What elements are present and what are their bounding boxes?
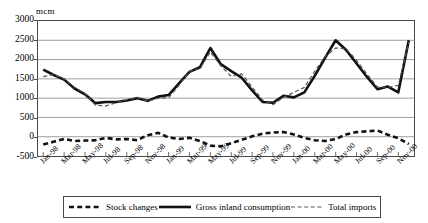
legend-swatch-thin-dashed <box>290 202 324 212</box>
y-axis-tick-label: 0 <box>1 132 34 142</box>
plot-svg <box>38 21 414 156</box>
legend-item: Stock changes <box>68 202 158 212</box>
legend-item: Gross inland consumption <box>158 202 291 212</box>
legend-label: Gross inland consumption <box>196 202 291 212</box>
plot-area <box>37 20 415 157</box>
y-axis-tick-label: -500 <box>1 152 34 162</box>
chart-container: mcm 300025002000150010005000-500 Jan-98M… <box>0 0 428 223</box>
y-axis-tick-label: 3000 <box>1 15 34 25</box>
y-axis-unit-label: mcm <box>36 6 55 16</box>
chart-legend: Stock changesGross inland consumptionTot… <box>63 196 381 218</box>
legend-item: Total imports <box>290 202 376 212</box>
series-line-total-imports <box>43 42 409 106</box>
y-axis-tick-label: 500 <box>1 113 34 123</box>
legend-label: Stock changes <box>106 202 158 212</box>
legend-swatch-thick-dashed <box>68 202 102 212</box>
y-axis-tick-mark <box>34 157 37 158</box>
y-axis-tick-labels: 300025002000150010005000-500 <box>0 0 34 223</box>
y-axis-tick-label: 1500 <box>1 74 34 84</box>
y-axis-tick-label: 2500 <box>1 35 34 45</box>
y-axis-tick-label: 1000 <box>1 93 34 103</box>
legend-swatch-thick-solid <box>158 202 192 212</box>
legend-label: Total imports <box>328 202 376 212</box>
y-axis-tick-label: 2000 <box>1 54 34 64</box>
